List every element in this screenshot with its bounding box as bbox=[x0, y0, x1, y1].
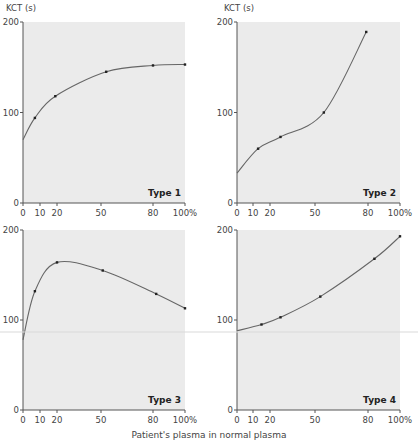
data-point bbox=[184, 63, 186, 65]
data-point bbox=[399, 235, 401, 237]
x-tick-label: 80 bbox=[363, 415, 374, 425]
y-tick-label: 100 bbox=[217, 108, 233, 118]
x-tick-label: 50 bbox=[96, 208, 107, 218]
data-point bbox=[155, 293, 157, 295]
y-tick-label: 200 bbox=[3, 17, 19, 27]
y-tick-label: 200 bbox=[217, 17, 233, 27]
data-point bbox=[260, 323, 262, 325]
x-tick-label: 10 bbox=[248, 415, 259, 425]
y-tick-label: 100 bbox=[217, 315, 233, 325]
data-point bbox=[34, 290, 36, 292]
y-axis-label-left: KCT (s) bbox=[6, 3, 36, 13]
x-tick-label: 80 bbox=[363, 208, 374, 218]
x-tick-label: 80 bbox=[148, 415, 159, 425]
x-tick-label: 20 bbox=[265, 208, 276, 218]
x-tick-label: 10 bbox=[35, 415, 46, 425]
plot-area bbox=[23, 230, 185, 410]
type-label: Type 4 bbox=[363, 395, 396, 405]
data-point bbox=[152, 64, 154, 66]
data-point bbox=[323, 111, 325, 113]
x-tick-label: 10 bbox=[248, 208, 259, 218]
y-tick-label: 200 bbox=[217, 225, 233, 235]
x-tick-label: 10 bbox=[35, 208, 46, 218]
data-point bbox=[257, 148, 259, 150]
x-tick-label: 0 bbox=[234, 208, 239, 218]
chart-panel-type-4: 0100200010205080100%Type 4 bbox=[217, 225, 412, 425]
y-tick-label: 0 bbox=[14, 198, 19, 208]
type-label: Type 2 bbox=[363, 188, 396, 198]
x-tick-label: 50 bbox=[310, 415, 321, 425]
x-tick-label: 80 bbox=[148, 208, 159, 218]
y-tick-label: 200 bbox=[3, 225, 19, 235]
data-point bbox=[279, 136, 281, 138]
data-point bbox=[279, 316, 281, 318]
data-point bbox=[365, 31, 367, 33]
x-tick-label: 0 bbox=[20, 208, 25, 218]
data-point bbox=[56, 261, 58, 263]
chart-panel-type-2: 0100200010205080100%Type 2 bbox=[217, 17, 412, 218]
chart-panel-type-1: 0100200010205080100%Type 1 bbox=[3, 17, 197, 218]
x-tick-label: 100% bbox=[173, 208, 197, 218]
x-tick-label: 100% bbox=[388, 208, 412, 218]
y-tick-label: 0 bbox=[228, 405, 233, 415]
data-point bbox=[105, 71, 107, 73]
data-point bbox=[54, 95, 56, 97]
x-axis-label: Patient's plasma in normal plasma bbox=[131, 430, 286, 440]
x-tick-label: 100% bbox=[173, 415, 197, 425]
x-tick-label: 50 bbox=[96, 415, 107, 425]
chart-panel-type-3: 0100200010205080100%Type 3 bbox=[3, 225, 197, 425]
plot-area bbox=[237, 22, 400, 203]
plot-area bbox=[23, 22, 185, 203]
y-tick-label: 100 bbox=[3, 108, 19, 118]
chart-canvas: 0100200010205080100%Type 101002000102050… bbox=[0, 0, 418, 447]
x-tick-label: 20 bbox=[52, 415, 63, 425]
x-tick-label: 0 bbox=[234, 415, 239, 425]
y-axis-label-right: KCT (s) bbox=[224, 3, 254, 13]
data-point bbox=[184, 307, 186, 309]
data-point bbox=[319, 295, 321, 297]
x-tick-label: 0 bbox=[20, 415, 25, 425]
y-tick-label: 100 bbox=[3, 315, 19, 325]
y-tick-label: 0 bbox=[14, 405, 19, 415]
data-point bbox=[34, 117, 36, 119]
plot-area bbox=[237, 230, 400, 410]
y-tick-label: 0 bbox=[228, 198, 233, 208]
x-tick-label: 20 bbox=[52, 208, 63, 218]
x-tick-label: 50 bbox=[310, 208, 321, 218]
data-point bbox=[102, 269, 104, 271]
type-label: Type 1 bbox=[148, 188, 181, 198]
x-tick-label: 100% bbox=[388, 415, 412, 425]
data-point bbox=[373, 258, 375, 260]
x-tick-label: 20 bbox=[265, 415, 276, 425]
type-label: Type 3 bbox=[148, 395, 181, 405]
